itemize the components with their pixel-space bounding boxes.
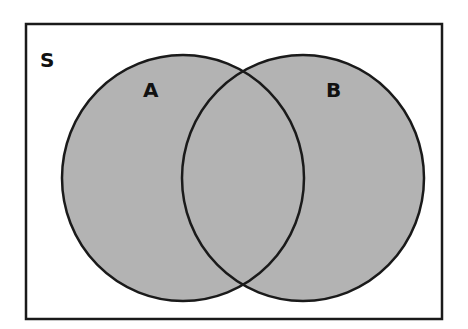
universe-label: S [40,48,54,72]
set-a-label: A [143,78,159,102]
set-b-label: B [326,78,341,102]
venn-diagram: S A B [0,0,468,329]
